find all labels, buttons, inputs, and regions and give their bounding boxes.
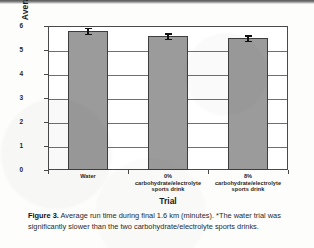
x-category-label: 0%carbohydrate/electrolytesports drink [128, 173, 208, 193]
figure-3: Average run time (minutes) 0123456 Water… [0, 0, 314, 248]
y-tick-label-2: 2 [5, 118, 23, 125]
bar-series [48, 26, 288, 170]
x-category-label-line: carbohydrate/electrolyte [208, 180, 288, 187]
error-bar-cap-upper [85, 28, 92, 29]
y-tick-label-5: 5 [5, 46, 23, 53]
error-bar-cap-lower [165, 39, 172, 40]
error-bar-cap-lower [85, 34, 92, 35]
bar [228, 38, 268, 170]
bar [68, 31, 108, 170]
y-tick-label-0: 0 [5, 166, 23, 173]
x-category-label-line: sports drink [208, 186, 288, 193]
x-category-label: 8%carbohydrate/electrolytesports drink [208, 173, 288, 193]
x-category-label-line: sports drink [128, 186, 208, 193]
x-category-label-line: 0% [128, 173, 208, 180]
figure-caption-label: Figure 3. [28, 211, 59, 220]
y-axis-title: Average run time (minutes) [18, 0, 32, 38]
error-bar-cap-upper [165, 33, 172, 34]
bar [148, 36, 188, 170]
figure-caption: Figure 3. Average run time during final … [28, 210, 298, 232]
y-tick-label-4: 4 [5, 70, 23, 77]
error-bar-cap-lower [245, 41, 252, 42]
y-tick-label-3: 3 [5, 94, 23, 101]
y-tick-label-6: 6 [5, 22, 23, 29]
x-tick-mark [288, 170, 289, 174]
bar-slot [208, 26, 288, 170]
error-bar-cap-upper [245, 35, 252, 36]
x-category-label-line: Water [48, 173, 128, 180]
figure-caption-text: Average run time during final 1.6 km (mi… [28, 211, 281, 231]
x-category-label: Water [48, 173, 128, 180]
bar-slot [128, 26, 208, 170]
bar-slot [48, 26, 128, 170]
y-tick-label-1: 1 [5, 142, 23, 149]
x-axis-title: Trial [48, 196, 288, 206]
x-category-label-line: carbohydrate/electrolyte [128, 180, 208, 187]
x-category-label-line: 8% [208, 173, 288, 180]
